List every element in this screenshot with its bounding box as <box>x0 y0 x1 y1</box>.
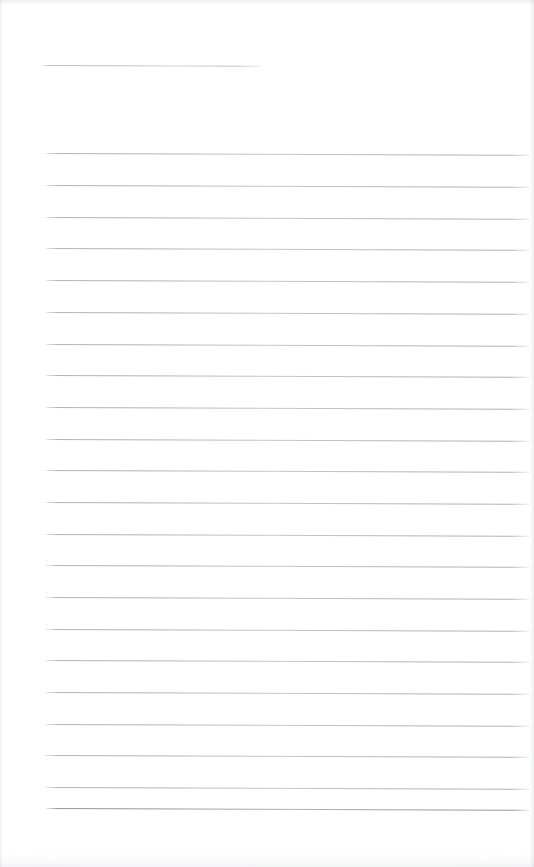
scan-edge-left <box>0 0 4 867</box>
paper-surface <box>0 0 534 867</box>
scan-edge-bottom <box>0 853 534 867</box>
scan-edge-right <box>528 0 534 867</box>
scanned-page <box>0 0 534 867</box>
scan-edge-top <box>0 0 534 6</box>
